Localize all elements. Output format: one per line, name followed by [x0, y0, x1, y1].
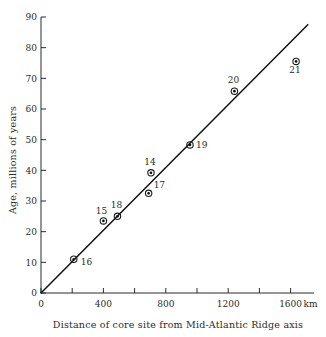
- data-point[interactable]: 20: [228, 75, 240, 94]
- data-point[interactable]: 19: [187, 140, 208, 150]
- y-tick-label: 80: [26, 43, 38, 53]
- y-tick-label: 20: [26, 227, 38, 237]
- data-point[interactable]: 14: [144, 157, 156, 176]
- x-tick-label: 1200: [217, 299, 240, 309]
- data-point-label: 20: [228, 75, 240, 85]
- plot-area: 0102030405060708090 040080012001600 km 1…: [0, 0, 326, 337]
- x-axis-ticks: 040080012001600: [38, 288, 302, 309]
- data-point-marker-dot: [147, 192, 150, 195]
- scatter-chart: 0102030405060708090 040080012001600 km 1…: [0, 0, 326, 337]
- data-point-marker-dot: [150, 171, 153, 174]
- y-axis-ticks: 0102030405060708090: [26, 12, 46, 298]
- x-tick-label: 800: [157, 299, 174, 309]
- x-tick-label: 0: [38, 299, 44, 309]
- data-point[interactable]: 16: [71, 256, 93, 267]
- x-axis-unit-label: km: [304, 299, 318, 309]
- x-tick-label: 1600: [279, 299, 302, 309]
- data-points-group: 1615181714192021: [71, 58, 301, 267]
- data-point[interactable]: 17: [145, 180, 165, 196]
- y-tick-label: 70: [26, 74, 38, 84]
- data-point-label: 15: [96, 206, 108, 216]
- y-axis-title: Age, millions of years: [7, 106, 18, 215]
- x-axis-title: Distance of core site from Mid-Atlantic …: [53, 319, 303, 330]
- data-point-label: 18: [111, 200, 123, 210]
- y-tick-label: 0: [31, 288, 37, 298]
- y-tick-label: 90: [26, 12, 38, 22]
- y-tick-label: 60: [26, 104, 38, 114]
- trend-line: [41, 25, 308, 293]
- data-point-marker-dot: [189, 144, 192, 147]
- data-point[interactable]: 15: [96, 206, 108, 224]
- data-point[interactable]: 18: [111, 200, 123, 219]
- data-point-label: 16: [81, 257, 93, 267]
- data-point-marker-dot: [295, 60, 298, 63]
- y-tick-label: 40: [26, 166, 38, 176]
- y-tick-label: 50: [26, 135, 38, 145]
- y-tick-label: 10: [26, 258, 38, 268]
- data-point-label: 17: [154, 180, 166, 190]
- data-point-label: 21: [289, 65, 300, 75]
- data-point-marker-dot: [72, 258, 75, 261]
- data-point-marker-dot: [102, 220, 105, 223]
- x-tick-label: 400: [95, 299, 112, 309]
- data-point-marker-dot: [233, 90, 236, 93]
- y-tick-label: 30: [26, 196, 38, 206]
- data-point[interactable]: 21: [289, 58, 300, 75]
- data-point-label: 14: [144, 157, 156, 167]
- data-point-marker-dot: [116, 215, 119, 218]
- data-point-label: 19: [196, 140, 208, 150]
